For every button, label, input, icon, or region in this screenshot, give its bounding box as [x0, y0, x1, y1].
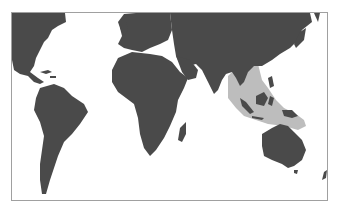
world-map [0, 0, 340, 210]
